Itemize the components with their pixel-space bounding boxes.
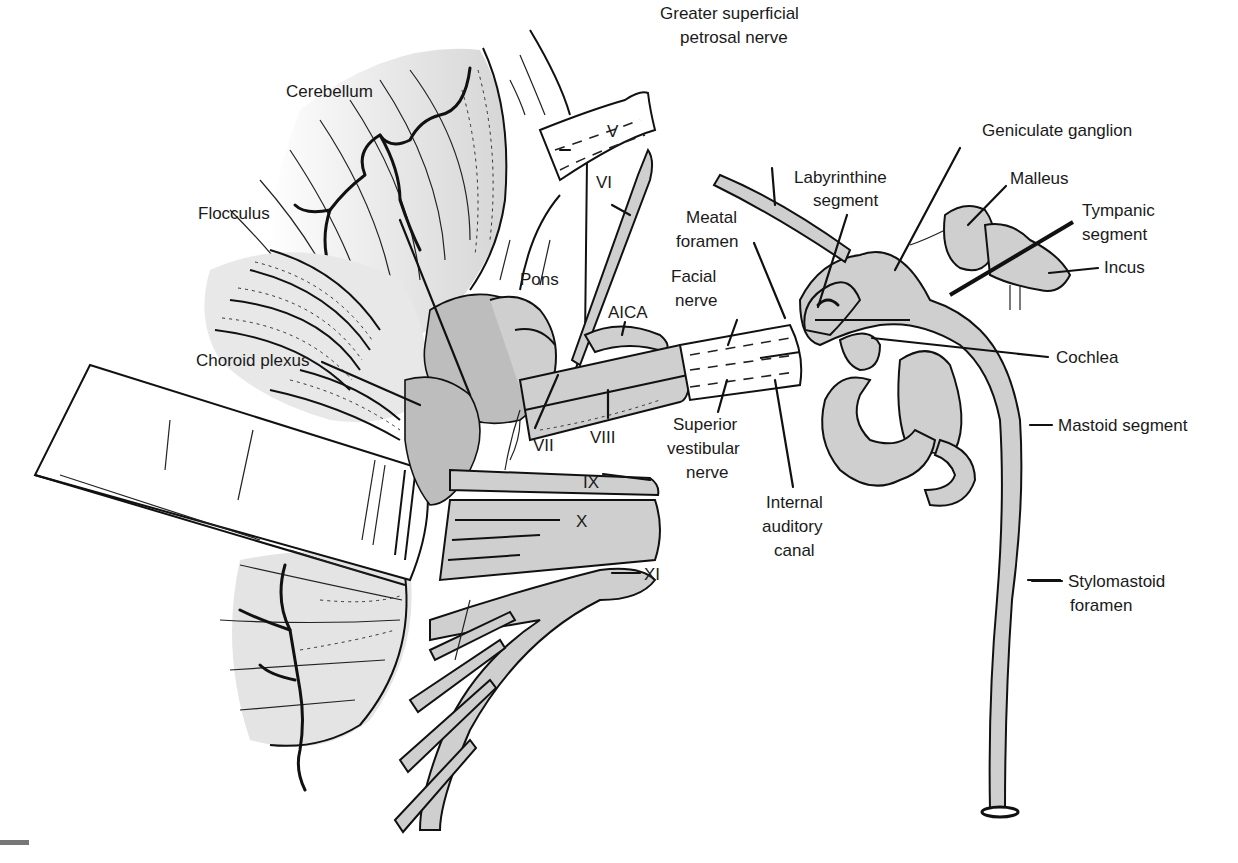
labyrinth-structure: [800, 252, 1021, 810]
malleus-structure: [910, 206, 994, 270]
label-gspn-line1: Greater superficial: [660, 4, 799, 23]
label-cn-xi: XI: [644, 565, 660, 584]
label-facial-line1: Facial: [671, 267, 716, 286]
label-pons: Pons: [520, 270, 559, 289]
label-iac-line3: canal: [774, 541, 815, 560]
label-cochlea: Cochlea: [1056, 348, 1119, 367]
label-malleus: Malleus: [1010, 169, 1069, 188]
label-flocculus: Flocculus: [198, 204, 270, 223]
label-sup-vestibular-line3: nerve: [686, 463, 729, 482]
internal-auditory-canal-structure: [680, 325, 801, 400]
label-tympanic-line1: Tympanic: [1082, 201, 1155, 220]
label-gspn-line2: petrosal nerve: [680, 28, 788, 47]
label-choroid-plexus: Choroid plexus: [196, 351, 309, 370]
label-facial-line2: nerve: [675, 291, 718, 310]
label-iac-line2: auditory: [762, 517, 823, 536]
label-geniculate-ganglion: Geniculate ganglion: [982, 121, 1132, 140]
label-cn-vii: VII: [533, 436, 554, 455]
label-cn-v: V: [607, 122, 619, 141]
figure-edge-bar: [0, 840, 29, 845]
label-cn-vi: VI: [596, 173, 612, 192]
label-stylomastoid-line1: Stylomastoid: [1068, 572, 1165, 591]
anatomy-diagram: Cerebellum Flocculus Choroid plexus Pons…: [0, 0, 1238, 863]
label-cerebellum: Cerebellum: [286, 82, 373, 101]
stylomastoid-foramen-structure: [982, 807, 1018, 817]
label-cn-ix: IX: [583, 473, 599, 492]
label-sup-vestibular-line1: Superior: [673, 415, 738, 434]
label-stylomastoid-line2: foramen: [1070, 596, 1132, 615]
aica-structure: [585, 327, 668, 353]
label-iac-line1: Internal: [766, 493, 823, 512]
label-tympanic-line2: segment: [1082, 225, 1147, 244]
label-sup-vestibular-line2: vestibular: [667, 439, 740, 458]
label-meatal-line2: foramen: [676, 232, 738, 251]
label-incus: Incus: [1104, 258, 1145, 277]
label-aica: AICA: [608, 303, 648, 322]
label-mastoid-segment: Mastoid segment: [1058, 416, 1188, 435]
label-labyrinthine-line2: segment: [813, 191, 878, 210]
trigeminal-nerve-structure: [540, 92, 655, 180]
label-cn-viii: VIII: [590, 428, 616, 447]
label-labyrinthine-line1: Labyrinthine: [794, 168, 887, 187]
lower-cerebellum: [220, 552, 412, 790]
label-cn-x: X: [576, 512, 587, 531]
label-meatal-line1: Meatal: [686, 208, 737, 227]
